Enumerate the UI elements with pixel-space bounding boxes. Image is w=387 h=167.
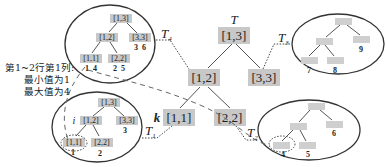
t1-edge-1 [93, 107, 104, 116]
t1-ellipse [52, 92, 142, 162]
t2-edge-2 [320, 110, 332, 120]
main-tree: T [1,3] [1,2] [3,3] [1,1] [2,2] k [154, 12, 280, 126]
annotation-line2: 最小值为1 [24, 74, 70, 85]
main-root-label: [1,3] [222, 28, 247, 43]
t3-right-node [353, 36, 370, 43]
t2-leaf-value: 6 [332, 129, 336, 138]
t2-root-node [308, 103, 325, 110]
t2-subtree: 4 5 6 [258, 100, 360, 160]
t1-leftright-label: [2,2] [94, 138, 110, 147]
t2-label: T2 [247, 125, 258, 142]
main-left-label: [1,2] [192, 70, 217, 85]
t4-root-label: [1,3] [113, 14, 129, 23]
t3-leaf-value: 7 [307, 66, 311, 75]
edge-left-leftright [208, 87, 230, 108]
main-right-label: [3,3] [252, 70, 277, 85]
t3-leftleft-node [301, 57, 318, 64]
t2-leaf-value: 4 [281, 150, 285, 159]
t1-edge-2 [114, 107, 124, 116]
t2-right-node [326, 121, 343, 128]
t4-right-values: 3 6 [134, 43, 146, 52]
t2-leftright-node [299, 142, 316, 149]
t1-leftright-value: 2 [98, 149, 102, 158]
t1-right-label: [3,3] [119, 116, 135, 125]
t4-subtree: [1,3] [1,2] [3,3] 3 6 [1,1] 1 4 [2,2] 2 … [65, 5, 155, 83]
t1-edge-4 [93, 125, 99, 136]
t4-left-label: [1,2] [99, 33, 115, 42]
t3-edge-4 [325, 45, 334, 56]
t4-leftright-values: 2 5 [113, 64, 125, 73]
segment-tree-diagram: T [1,3] [1,2] [3,3] [1,1] [2,2] k [1,3] … [0, 0, 387, 167]
t1-label: T1 [145, 123, 156, 140]
t3-link [263, 44, 290, 69]
t2-leftleft-node [273, 142, 290, 149]
annotation: 第1~2行第1列: 最小值为1 最大值为4 [5, 62, 74, 97]
annotation-line1: 第1~2行第1列: [5, 62, 74, 73]
t1-left-label: [1,2] [83, 116, 99, 125]
main-tree-label: T [230, 12, 238, 27]
t4-edge-2 [127, 23, 137, 33]
t4-label: T4 [161, 26, 172, 43]
t1-edge-3 [76, 125, 86, 136]
k-label: k [154, 110, 161, 125]
t3-label: T3 [278, 30, 289, 47]
edge-left-leftleft [180, 87, 200, 108]
edge-root-left [208, 44, 232, 68]
t1-right-value: 3 [123, 126, 127, 135]
main-leftleft-label: [1,1] [167, 110, 192, 125]
t3-root-node [335, 18, 352, 25]
t1-leftleft-label: [1,1] [66, 138, 82, 147]
t4-leftright-label: [2,2] [111, 54, 127, 63]
t4-edge-4 [110, 42, 117, 53]
t4-right-label: [3,3] [132, 33, 148, 42]
t1-subtree: [1,3] [1,2] i [3,3] 3 [1,1] 1 [2,2] 2 [52, 92, 142, 162]
t3-leaf-value: 9 [359, 45, 363, 54]
t4-leftleft-values: 1 4 [85, 64, 97, 73]
t2-edge-3 [282, 130, 293, 141]
annotation-line3: 最大值为4 [24, 86, 70, 97]
t3-edge-1 [326, 25, 340, 37]
t3-left-node [316, 38, 333, 45]
t3-edge-3 [309, 45, 320, 56]
t3-leaf-value: 8 [333, 66, 337, 75]
t2-leaf-value: 5 [306, 150, 310, 159]
t3-edge-2 [347, 25, 360, 35]
i-label: i [73, 115, 76, 126]
t1-leftleft-value: 1 [71, 148, 75, 157]
t2-left-node [290, 123, 307, 130]
t3-leftright-node [327, 57, 344, 64]
edge-root-right [236, 44, 260, 68]
t3-subtree: 7 8 9 [292, 14, 384, 75]
t4-link [156, 40, 189, 69]
t4-edge-3 [92, 42, 100, 53]
t1-root-label: [1,3] [101, 98, 117, 107]
t4-leftleft-label: [1,1] [83, 54, 99, 63]
main-leftright-label: [2,2] [218, 110, 243, 125]
t4-edge-1 [109, 23, 117, 32]
t2-edge-4 [300, 130, 306, 141]
t2-edge-1 [299, 110, 310, 122]
